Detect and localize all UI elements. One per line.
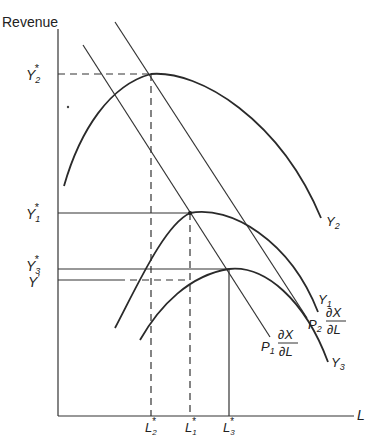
y2-star-label: Y2* xyxy=(26,62,40,85)
y2-curve xyxy=(64,74,321,218)
y-prime-label: Y′ xyxy=(28,272,40,290)
revenue-labor-diagram: Revenue L Y2* Y1* Y3* Y′ L2* L1* L3* Y2 xyxy=(0,0,377,440)
y2-curve-label: Y2 xyxy=(326,214,340,231)
svg-text:∂L: ∂L xyxy=(279,344,293,359)
y1-peak-point xyxy=(188,211,192,215)
svg-text:∂L: ∂L xyxy=(327,322,341,337)
svg-text:Y2: Y2 xyxy=(326,214,340,231)
y1-curve xyxy=(115,212,318,328)
y3-curve-label: Y3 xyxy=(331,355,345,372)
x-axis-label: L xyxy=(357,407,365,423)
svg-text:L3*: L3* xyxy=(223,416,235,437)
y1-star-label: Y1* xyxy=(26,201,40,224)
svg-text:Y1*: Y1* xyxy=(26,201,40,224)
l3-star-label: L3* xyxy=(223,416,235,437)
svg-text:P1: P1 xyxy=(261,339,275,356)
l1-star-label: L1* xyxy=(185,416,197,437)
y3-curve xyxy=(140,269,328,362)
y-axis-label: Revenue xyxy=(2,14,58,30)
stray-dot xyxy=(67,106,69,108)
svg-text:L1*: L1* xyxy=(185,416,197,437)
svg-text:Y′: Y′ xyxy=(28,272,40,290)
svg-text:Y3: Y3 xyxy=(331,355,345,372)
l2-star-label: L2* xyxy=(145,416,157,437)
svg-text:∂X: ∂X xyxy=(278,327,294,342)
svg-text:∂X: ∂X xyxy=(326,305,342,320)
svg-text:P2: P2 xyxy=(308,317,322,334)
svg-text:Y2*: Y2* xyxy=(26,62,40,85)
svg-text:L2*: L2* xyxy=(145,416,157,437)
